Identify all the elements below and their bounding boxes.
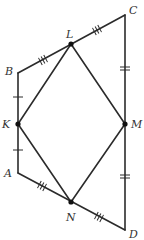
label-L: L — [65, 28, 73, 41]
inner-quadrilateral — [18, 44, 125, 202]
point-L — [68, 41, 73, 46]
label-A: A — [3, 167, 12, 180]
point-M — [122, 121, 127, 126]
tick-mark-ND — [94, 212, 103, 222]
tick-mark-AN — [37, 181, 46, 191]
label-K: K — [1, 118, 11, 131]
label-C: C — [129, 4, 138, 17]
segment-NK — [18, 124, 71, 202]
label-D: D — [128, 228, 138, 240]
geometry-diagram: C L B K M A N D — [0, 0, 144, 240]
tick-mark-BL — [38, 55, 47, 65]
vertex-labels: C L B K M A N D — [1, 4, 143, 240]
segment-MN — [71, 124, 125, 202]
tick-mark-LC — [92, 25, 101, 35]
segment-LM — [71, 44, 125, 124]
label-B: B — [4, 65, 13, 78]
label-N: N — [65, 211, 76, 224]
outer-quadrilateral — [18, 15, 125, 230]
point-K — [15, 121, 20, 126]
congruence-marks — [13, 25, 130, 222]
point-N — [68, 199, 73, 204]
label-M: M — [130, 118, 143, 131]
